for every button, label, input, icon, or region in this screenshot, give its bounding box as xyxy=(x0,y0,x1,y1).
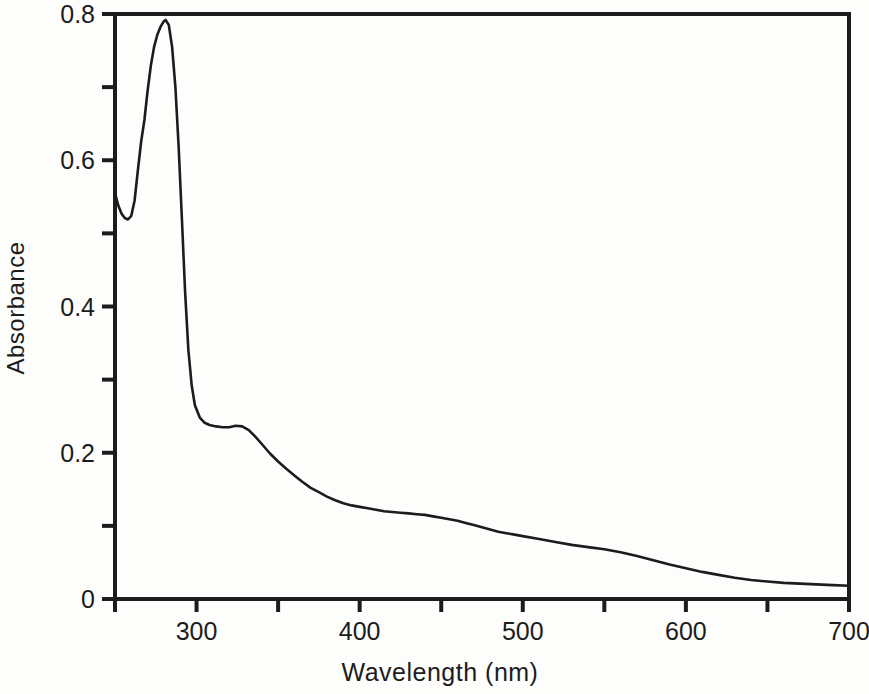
x-tick-label: 500 xyxy=(502,617,544,645)
x-axis-title: Wavelength (nm) xyxy=(290,658,590,687)
y-tick-label: 0.2 xyxy=(60,439,95,467)
x-tick-label: 300 xyxy=(176,617,218,645)
spectrum-curve xyxy=(115,20,849,586)
x-tick-label: 400 xyxy=(339,617,381,645)
spectrum-figure: 30040050060070000.20.40.60.8 Wavelength … xyxy=(0,0,869,694)
y-axis-title: Absorbance xyxy=(2,178,30,438)
x-tick-label: 700 xyxy=(828,617,869,645)
spectrum-chart: 30040050060070000.20.40.60.8 xyxy=(0,0,869,694)
plot-frame xyxy=(115,14,849,599)
y-tick-label: 0.6 xyxy=(60,146,95,174)
y-tick-label: 0.8 xyxy=(60,0,95,28)
x-tick-label: 600 xyxy=(665,617,707,645)
y-tick-label: 0 xyxy=(81,585,95,613)
y-tick-label: 0.4 xyxy=(60,293,95,321)
